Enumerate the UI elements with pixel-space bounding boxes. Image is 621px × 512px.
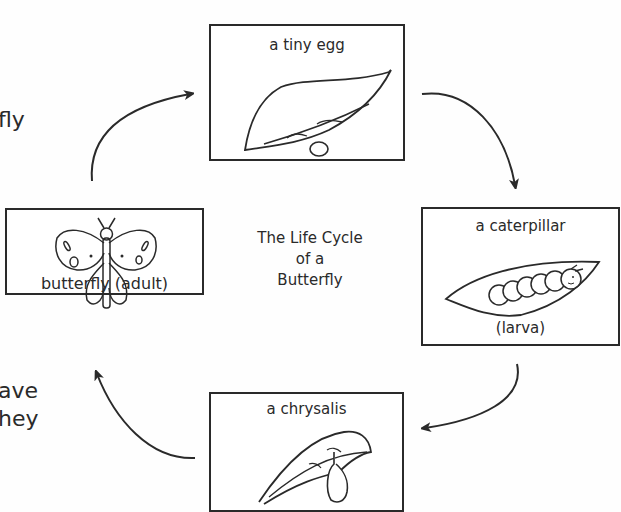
arrow-chrysalis-to-butterfly [0,0,621,501]
